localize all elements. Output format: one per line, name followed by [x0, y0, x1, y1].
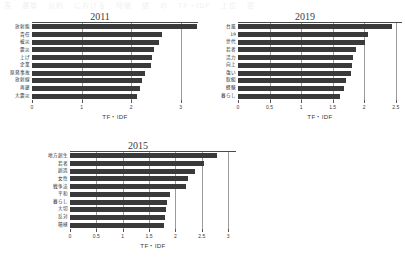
bar [70, 200, 167, 205]
bar-slot [70, 223, 236, 228]
x-axis-title: TF・IDF [238, 112, 402, 121]
bar-slot [32, 71, 198, 76]
bar-slot [238, 78, 402, 83]
caption-fragment: における [74, 2, 106, 9]
bar [32, 63, 151, 68]
x-axis-title: TF・IDF [32, 112, 198, 121]
category-label: 放射線 [2, 76, 30, 83]
category-label: 反対 [40, 213, 68, 220]
caption-fragment: TF・IDF [178, 2, 211, 9]
chart-panel-2011: 2011放射能責任被災震災上げ企業原発事故放射線再建大震災0123TF・IDF [2, 11, 198, 135]
bar-slot [70, 192, 236, 197]
bar-slot [238, 24, 402, 29]
bar-slot [32, 40, 198, 45]
category-label: 再建 [2, 84, 30, 91]
tick-label: 1.5 [146, 232, 153, 240]
bar-slot [32, 78, 198, 83]
category-label: 女性 [40, 175, 68, 182]
category-label: 19 [208, 31, 236, 38]
tick-label: 2 [363, 103, 366, 111]
tick-labels: 00.511.522.53 [70, 232, 236, 240]
chart-panel-2015: 2015地方創生若者創造女性戦争法平和暮らし大切反対積極00.511.522.5… [40, 140, 236, 270]
category-label: 地方創生 [40, 152, 68, 159]
bar [70, 223, 164, 228]
tick-labels: 00.511.522.5 [238, 103, 402, 111]
category-label: 向上 [208, 61, 236, 68]
category-label: 被災 [2, 38, 30, 45]
caption-fragment: 表 [4, 2, 12, 9]
category-label: 平和 [40, 190, 68, 197]
bar-slot [32, 55, 198, 60]
caption-fragment: 上位 [221, 2, 237, 9]
bar [32, 55, 152, 60]
category-label: 企業 [2, 61, 30, 68]
bar-slot [70, 161, 236, 166]
caption-fragment: 語 [142, 2, 150, 9]
bar-series [70, 152, 236, 229]
bar [32, 40, 159, 45]
tick-label: 3 [179, 103, 182, 111]
value-axis: 00.511.522.53TF・IDF [70, 229, 236, 250]
category-label: 暮らし [208, 92, 236, 99]
bar-slot [70, 184, 236, 189]
bar [32, 94, 137, 99]
bar [70, 176, 188, 181]
bar [238, 40, 365, 45]
category-label: 責任 [2, 31, 30, 38]
tick-label: 1 [121, 232, 124, 240]
bar-series [32, 23, 198, 100]
bar [238, 24, 392, 29]
bar-slot [238, 47, 402, 52]
category-label: 上げ [2, 54, 30, 61]
chart-panel-2019: 2019台風19世代若者活力向上強い取組経験暮らし00.511.522.5TF・… [208, 11, 402, 135]
bar [32, 86, 140, 91]
tick-label: 0 [31, 103, 34, 111]
caption-fragment: 公約 [48, 2, 64, 9]
tick-label: 2 [174, 232, 177, 240]
category-axis-labels: 地方創生若者創造女性戦争法平和暮らし大切反対積極 [40, 151, 70, 229]
x-axis-title: TF・IDF [70, 241, 236, 250]
bar-slot [70, 169, 236, 174]
bar [32, 47, 154, 52]
bar [238, 71, 351, 76]
category-label: 創造 [40, 167, 68, 174]
category-label: 活力 [208, 54, 236, 61]
bar [32, 71, 145, 76]
bar-slot [70, 176, 236, 181]
bar-slot [238, 32, 402, 37]
caption-fragment: 特徴 [116, 2, 132, 9]
bar-slot [32, 86, 198, 91]
tick-label: 1 [300, 103, 303, 111]
bar-slot [70, 215, 236, 220]
category-label: 震災 [2, 46, 30, 53]
value-axis: 0123TF・IDF [32, 100, 198, 121]
category-label: 強い [208, 69, 236, 76]
plot-row: 放射能責任被災震災上げ企業原発事故放射線再建大震災 [2, 22, 198, 100]
bar [70, 192, 170, 197]
plot-area [238, 22, 402, 100]
bar [238, 78, 346, 83]
plot-row: 台風19世代若者活力向上強い取組経験暮らし [208, 22, 402, 100]
category-label: 台風 [208, 23, 236, 30]
tick-labels: 0123 [32, 103, 198, 111]
tick-label: 2 [130, 103, 133, 111]
tick-label: 2.5 [392, 103, 399, 111]
bar [238, 32, 368, 37]
chart-title: 2019 [208, 11, 402, 22]
bar-slot [238, 86, 402, 91]
bar-slot [32, 63, 198, 68]
bar-slot [238, 40, 402, 45]
bar-slot [238, 55, 402, 60]
caption-fragment: 選挙 [22, 2, 38, 9]
chart-title: 2011 [2, 11, 198, 22]
category-label: 取組 [208, 76, 236, 83]
category-label: 大切 [40, 205, 68, 212]
plot-area [70, 151, 236, 229]
value-axis: 00.511.522.5TF・IDF [238, 100, 402, 121]
tick-label: 0 [237, 103, 240, 111]
category-label: 大震災 [2, 92, 30, 99]
category-label: 原発事故 [2, 69, 30, 76]
category-label: 世代 [208, 38, 236, 45]
bar [238, 55, 353, 60]
bar [70, 184, 186, 189]
